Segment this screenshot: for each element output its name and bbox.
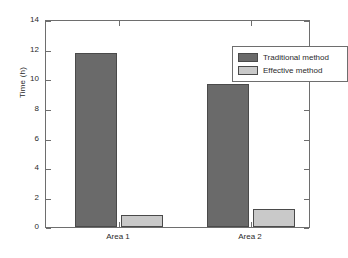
y-tick-2	[46, 199, 51, 200]
y-tick-2-right	[304, 199, 309, 200]
y-tick-14-right	[304, 21, 309, 22]
y-tick-8	[46, 110, 51, 111]
legend-swatch-effective	[238, 66, 258, 75]
bar-area-2-effective	[253, 209, 295, 227]
y-tick-label-0: 0	[9, 223, 39, 231]
legend-label-traditional: Traditional method	[263, 54, 329, 62]
plot-area: Traditional method Effective method	[45, 20, 310, 228]
y-tick-0	[46, 228, 51, 229]
y-tick-6-right	[304, 140, 309, 141]
legend-swatch-traditional	[238, 53, 258, 62]
y-tick-4	[46, 169, 51, 170]
bar-area-1-traditional	[75, 53, 117, 227]
y-tick-label-2: 2	[9, 194, 39, 202]
legend: Traditional method Effective method	[232, 46, 348, 82]
y-tick-4-right	[304, 169, 309, 170]
x-tick-area-1	[119, 222, 120, 227]
legend-item-effective: Effective method	[238, 64, 342, 77]
legend-item-traditional: Traditional method	[238, 51, 342, 64]
y-axis-title: Time (h)	[18, 23, 27, 143]
bar-area-2-traditional	[207, 84, 249, 227]
y-tick-10	[46, 80, 51, 81]
y-tick-0-right	[304, 228, 309, 229]
y-tick-6	[46, 140, 51, 141]
x-tick-label-area-2: Area 2	[210, 233, 290, 241]
x-tick-area-1-top	[119, 21, 120, 26]
x-tick-area-2-top	[251, 21, 252, 26]
bar-area-1-effective	[121, 215, 163, 227]
y-tick-8-right	[304, 110, 309, 111]
y-tick-label-4: 4	[9, 164, 39, 172]
x-tick-label-area-1: Area 1	[78, 233, 158, 241]
legend-label-effective: Effective method	[263, 67, 322, 75]
y-tick-14	[46, 21, 51, 22]
y-tick-12	[46, 51, 51, 52]
x-tick-area-2	[251, 222, 252, 227]
